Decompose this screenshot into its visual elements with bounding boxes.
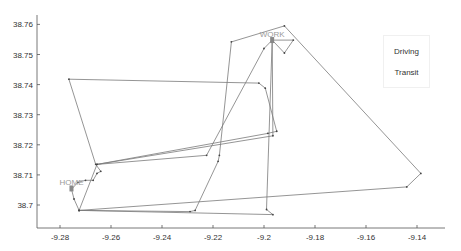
- y-tick-label: 38.73: [13, 111, 34, 120]
- route-point: [230, 41, 232, 43]
- route-point: [284, 25, 286, 27]
- route-point: [292, 39, 294, 41]
- home-label: HOME: [59, 178, 83, 187]
- legend-item-transit: Transit: [384, 68, 429, 77]
- route-series: [68, 25, 422, 216]
- x-tick-label: -9.24: [153, 233, 172, 242]
- route-point: [96, 163, 98, 165]
- series-transit-line: [69, 40, 293, 215]
- route-point: [85, 179, 87, 181]
- route-point: [267, 132, 269, 134]
- x-tick-label: -9.16: [357, 233, 376, 242]
- y-tick-label: 38.72: [13, 141, 34, 150]
- route-point: [189, 211, 191, 213]
- y-tick-label: 38.7: [17, 201, 33, 210]
- x-tick-label: -9.22: [204, 233, 223, 242]
- route-point: [263, 48, 265, 50]
- x-tick-label: -9.26: [102, 233, 121, 242]
- route-point: [258, 82, 260, 84]
- x-tick-label: -9.18: [306, 233, 325, 242]
- x-tick-label: -9.28: [51, 233, 70, 242]
- route-point: [266, 209, 268, 211]
- route-point: [420, 172, 422, 174]
- route-point: [276, 130, 278, 132]
- work-label: WORK: [260, 30, 286, 39]
- route-point: [217, 160, 219, 162]
- route-point: [68, 78, 70, 80]
- route-point: [284, 52, 286, 54]
- route-point: [73, 198, 75, 200]
- y-tick-label: 38.74: [13, 81, 34, 90]
- route-point: [272, 214, 274, 216]
- route-point: [218, 154, 220, 156]
- route-point: [100, 170, 102, 172]
- route-point: [78, 210, 80, 212]
- x-tick-label: -9.14: [408, 233, 427, 242]
- y-tick-label: 38.71: [13, 171, 34, 180]
- route-point: [406, 186, 408, 188]
- series-driving-line: [72, 26, 421, 212]
- route-point: [264, 87, 266, 89]
- y-tick-label: 38.75: [13, 51, 34, 60]
- legend: Driving Transit: [383, 35, 430, 88]
- place-annotations: HOMEWORK: [59, 30, 285, 191]
- route-point: [194, 210, 196, 212]
- route-point: [96, 172, 98, 174]
- x-tick-label: -9.2: [257, 233, 271, 242]
- y-tick-label: 38.76: [13, 20, 34, 29]
- legend-item-driving: Driving: [384, 47, 429, 56]
- route-point: [272, 135, 274, 137]
- route-point: [206, 154, 208, 156]
- route-point: [92, 179, 94, 181]
